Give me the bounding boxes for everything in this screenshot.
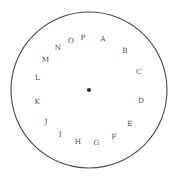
sector-label-E: E (127, 119, 132, 128)
sector-label-P: P (81, 33, 86, 42)
sector-label-K: K (34, 97, 40, 106)
sector-label-D: D (138, 96, 144, 105)
sector-label-H: H (75, 137, 81, 146)
sector-label-G: G (94, 138, 100, 147)
sector-label-A: A (99, 34, 106, 43)
sector-label-M: M (42, 55, 49, 64)
sector-label-O: O (68, 36, 74, 45)
center-hub-dot (87, 88, 91, 92)
sector-label-N: N (55, 43, 61, 52)
sector-label-J: J (44, 117, 48, 126)
sector-label-B: B (122, 46, 127, 55)
sector-wheel-figure: ABCDEFGHIJKLMNOP (0, 0, 178, 180)
sector-label-F: F (111, 132, 116, 141)
sector-label-I: I (59, 130, 62, 139)
sector-label-L: L (35, 73, 40, 82)
wheel-svg: ABCDEFGHIJKLMNOP (0, 0, 178, 180)
sector-label-C: C (136, 67, 142, 76)
